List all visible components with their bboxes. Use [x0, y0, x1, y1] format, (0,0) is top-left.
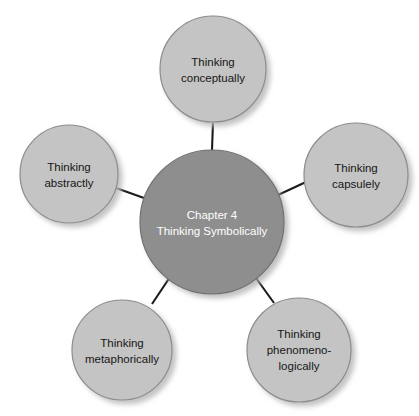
node-circle-thinking-metaphorically[interactable] — [72, 300, 172, 400]
node-label-thinking-metaphorically-line1: Thinking — [100, 337, 143, 349]
node-circle-thinking-capsulely[interactable] — [304, 123, 408, 227]
center-label-line1: Chapter 4 — [187, 209, 238, 221]
node-thinking-conceptually[interactable]: Thinking conceptually — [160, 16, 266, 122]
node-circle-thinking-abstractly[interactable] — [20, 125, 118, 223]
node-circle-center[interactable] — [140, 150, 284, 294]
radial-concept-map: Thinking conceptually Thinking capsulely… — [0, 0, 419, 416]
node-label-thinking-metaphorically-line2: metaphorically — [85, 353, 159, 365]
node-label-thinking-phenomenologically-line1: Thinking — [277, 328, 320, 340]
connector-center-to-abstractly — [116, 188, 144, 198]
node-label-thinking-phenomenologically-line3: logically — [279, 360, 320, 372]
connector-center-to-phenomenologically — [256, 278, 274, 303]
node-center-chapter[interactable]: Chapter 4 Thinking Symbolically — [140, 150, 284, 294]
connector-center-to-conceptually — [212, 122, 213, 150]
node-label-thinking-phenomenologically-line2: phenomeno- — [267, 344, 332, 356]
node-thinking-abstractly[interactable]: Thinking abstractly — [20, 125, 118, 223]
node-label-thinking-abstractly-line1: Thinking — [47, 161, 90, 173]
node-label-thinking-conceptually-line2: conceptually — [181, 72, 245, 84]
node-label-thinking-abstractly-line2: abstractly — [44, 177, 93, 189]
node-circle-thinking-conceptually[interactable] — [160, 16, 266, 122]
node-thinking-capsulely[interactable]: Thinking capsulely — [304, 123, 408, 227]
node-label-thinking-capsulely-line2: capsulely — [332, 178, 380, 190]
connector-center-to-capsulely — [278, 182, 306, 195]
node-label-thinking-capsulely-line1: Thinking — [334, 162, 377, 174]
connector-center-to-metaphorically — [152, 277, 170, 304]
node-thinking-metaphorically[interactable]: Thinking metaphorically — [72, 300, 172, 400]
node-label-thinking-conceptually-line1: Thinking — [191, 56, 234, 68]
diagram-canvas: Thinking conceptually Thinking capsulely… — [0, 0, 419, 416]
center-label-line2: Thinking Symbolically — [157, 225, 268, 237]
node-thinking-phenomenologically[interactable]: Thinking phenomeno- logically — [247, 298, 351, 402]
